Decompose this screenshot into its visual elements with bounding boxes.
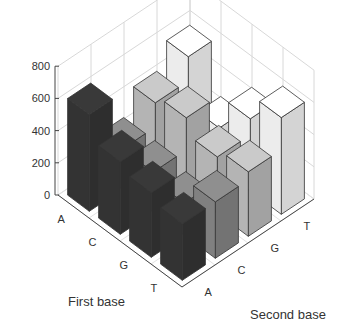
x-tick-label: C [89,236,97,248]
z-tick-label: 200 [32,157,50,169]
bars [68,25,305,280]
x-axis-label: First base [68,294,125,309]
y-tick-label: T [304,220,311,232]
x-tick-label: T [151,282,158,294]
y-tick-label: A [205,286,213,298]
z-tick-label: 600 [32,92,50,104]
x-tick-label: G [120,259,129,271]
bar [161,192,206,280]
x-tick-label: A [58,213,66,225]
y-tick-label: C [238,264,246,276]
z-tick-label: 400 [32,125,50,137]
z-tick-label: 0 [44,189,50,201]
y-axis-label: Second base [250,307,326,322]
bar3d-chart: 0200400600800ACGTACGT First base Second … [0,0,347,332]
z-tick-label: 800 [32,60,50,72]
y-tick-label: G [271,242,280,254]
